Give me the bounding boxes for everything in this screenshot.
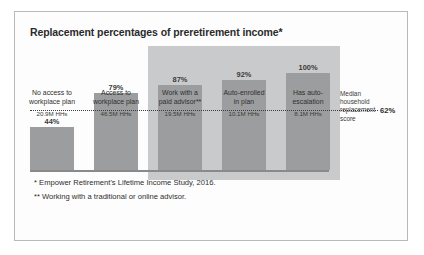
category-sublabel: 46.5M HHs [86, 110, 146, 117]
chart-frame: Replacement percentages of preretirement… [14, 11, 408, 241]
category-label: Has auto- escalation [278, 88, 338, 106]
bar-column: 92% Auto-enrolled in plan 10.1M HHs [222, 46, 266, 206]
footnote-one: * Empower Retirement's Lifetime Income S… [34, 178, 216, 187]
category-label: Auto-enrolled in plan [214, 88, 274, 106]
bar-value-label: 100% [286, 63, 330, 72]
category-label-line1: Work with a [150, 88, 210, 97]
category-label: Access to workplace plan [86, 88, 146, 106]
category-sublabel: 20.9M HHs [22, 110, 82, 117]
bar-value-label: 92% [222, 70, 266, 79]
reference-line-value: 62% [380, 106, 395, 115]
bar-value-label: 87% [158, 75, 202, 84]
bar-value-label: 44% [30, 117, 74, 126]
category-label-line2: escalation [278, 97, 338, 106]
bar [30, 127, 74, 170]
category-label-line1: No access to [22, 88, 82, 97]
median-reference-line [30, 110, 378, 111]
legend-line1: Median household [340, 90, 392, 107]
category-label-line2: workplace plan [22, 97, 82, 106]
category-sublabel: 19.5M HHs [150, 110, 210, 117]
category-label-line2: in plan [214, 97, 274, 106]
category-sublabel: 10.1M HHs [214, 110, 274, 117]
bar-column: 100% Has auto- escalation 8.1M HHs [286, 46, 330, 206]
category-label-line2: workplace plan [86, 97, 146, 106]
category-sublabel: 8.1M HHs [278, 110, 338, 117]
category-label: Work with a paid advisor** [150, 88, 210, 106]
category-label-line1: Auto-enrolled [214, 88, 274, 97]
chart-title: Replacement percentages of preretirement… [30, 26, 283, 38]
category-label-line2: paid advisor** [150, 97, 210, 106]
footnote-two: ** Working with a traditional or online … [34, 192, 186, 201]
category-label-line1: Has auto- [278, 88, 338, 97]
category-label: No access to workplace plan [22, 88, 82, 106]
category-label-line1: Access to [86, 88, 146, 97]
